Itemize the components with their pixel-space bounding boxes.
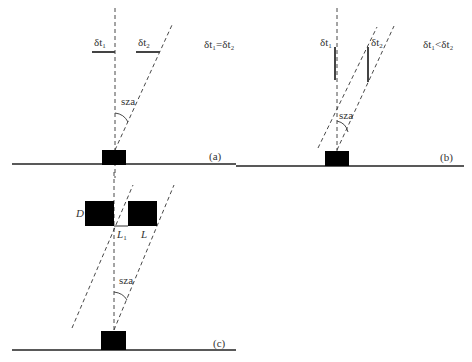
cloud-block-right [128, 201, 157, 226]
panel-c: D L1 L sza (c) [12, 172, 236, 350]
diagram-canvas: δt1 δt2 δt₁=δt₂ sza (a) δt1 δt2 δt₁<δt₂ … [0, 0, 472, 362]
l-label: L [140, 228, 147, 240]
sza-arc-c [114, 292, 127, 300]
delta-t1-label-a: δt1 [94, 36, 106, 50]
panel-label-b: (b) [440, 151, 453, 164]
relation-label-a: δt₁=δt₂ [204, 38, 235, 50]
instrument-box-b [325, 151, 349, 166]
d-label: D [75, 207, 84, 219]
panel-label-a: (a) [209, 150, 222, 163]
sza-label-a: sza [121, 95, 135, 107]
sza-label-b: sza [339, 109, 353, 121]
panel-b: δt1 δt2 δt₁<δt₂ sza (b) [236, 8, 464, 166]
relation-label-b: δt₁<δt₂ [423, 38, 454, 50]
delta-t2-label-b: δt2 [371, 36, 383, 50]
panel-label-c: (c) [213, 337, 226, 350]
instrument-box-c [101, 331, 126, 350]
sza-arc-a [115, 113, 128, 122]
panel-a: δt1 δt2 δt₁=δt₂ sza (a) [12, 8, 236, 178]
cloud-block-left [85, 201, 114, 226]
slant-dashed-line-b2 [337, 26, 394, 150]
l1-label: L1 [116, 228, 127, 242]
sza-label-c: sza [119, 274, 133, 286]
delta-t1-label-b: δt1 [320, 36, 332, 50]
instrument-box-a [102, 150, 126, 165]
delta-t2-label-a: δt2 [138, 36, 150, 50]
